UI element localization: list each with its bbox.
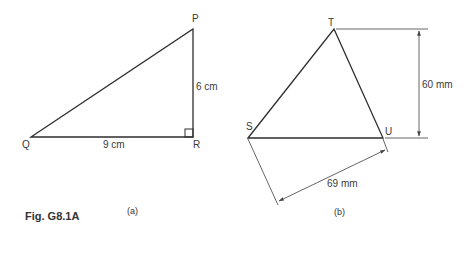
vertex-label-p: P	[192, 14, 199, 24]
side-label-pr: 6 cm	[196, 82, 218, 92]
triangle-pqr	[31, 29, 193, 137]
dimension-label-height: 60 mm	[422, 80, 453, 90]
vertex-label-r: R	[193, 140, 200, 150]
vertex-label-q: Q	[22, 140, 30, 150]
vertex-label-t: T	[328, 18, 334, 28]
dimension-label-offset: 69 mm	[327, 179, 358, 189]
height-dimension	[336, 29, 428, 138]
vertex-label-u: U	[385, 127, 392, 137]
figure-caption: Fig. G8.1A	[25, 210, 79, 222]
offset-dimension	[248, 139, 388, 205]
triangle-stu	[248, 29, 383, 138]
right-angle-marker	[185, 129, 193, 137]
side-label-qr: 9 cm	[103, 140, 125, 150]
sublabel-b: (b)	[334, 207, 345, 217]
vertex-label-s: S	[246, 122, 253, 132]
sublabel-a: (a)	[127, 206, 138, 216]
figure-g8-1a: P Q R 6 cm 9 cm (a) T S U 60 mm 69 mm (b…	[0, 0, 475, 257]
